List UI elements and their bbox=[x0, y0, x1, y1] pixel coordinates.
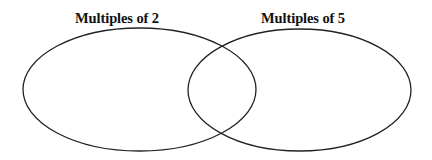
set-label-multiples-of-2: Multiples of 2 bbox=[75, 11, 159, 26]
set-label-multiples-of-5: Multiples of 5 bbox=[261, 11, 345, 26]
venn-diagram-svg bbox=[0, 0, 432, 160]
venn-diagram: Multiples of 2 Multiples of 5 bbox=[0, 0, 432, 160]
